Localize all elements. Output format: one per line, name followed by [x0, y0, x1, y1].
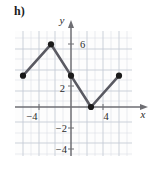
x-tick-label-neg4: −4	[26, 111, 38, 122]
data-point	[20, 73, 26, 79]
y-tick-label-neg4: −4	[56, 144, 68, 155]
data-point	[68, 73, 74, 79]
data-point	[116, 73, 122, 79]
y-tick-label-2: 2	[60, 83, 65, 94]
data-point	[48, 41, 54, 47]
coordinate-plot: y x −4 4 6 2 −2 −4	[0, 0, 156, 171]
y-axis-label: y	[59, 14, 65, 26]
y-tick-label-neg2: −2	[56, 123, 67, 134]
figure-panel: h)	[0, 0, 156, 171]
x-tick-label-4: 4	[103, 111, 109, 122]
y-tick-label-6: 6	[80, 39, 85, 50]
grid-panel	[15, 31, 132, 156]
x-axis-label: x	[140, 108, 146, 120]
data-point	[88, 104, 94, 110]
